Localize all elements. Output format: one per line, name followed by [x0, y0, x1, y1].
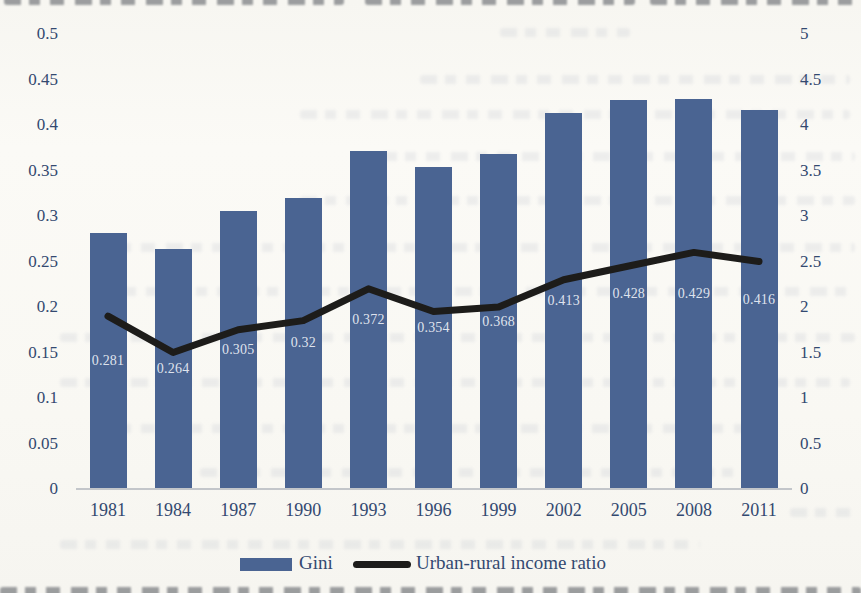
x-axis-label-1993: 1993	[336, 500, 400, 521]
x-axis-line	[76, 488, 792, 490]
x-axis-label-2011: 2011	[727, 500, 791, 521]
legend-gini-swatch	[240, 558, 292, 571]
scanned-book-page: 0.50.450.40.350.30.250.20.150.10.050 54.…	[0, 0, 861, 593]
legend-ratio-label: Urban-rural income ratio	[416, 552, 606, 574]
x-axis-label-1987: 1987	[206, 500, 270, 521]
x-axis-label-1990: 1990	[271, 500, 335, 521]
legend: Gini Urban-rural income ratio	[0, 552, 861, 578]
x-axis-label-1981: 1981	[76, 500, 140, 521]
x-axis-label-1996: 1996	[402, 500, 466, 521]
x-axis-label-2005: 2005	[597, 500, 661, 521]
legend-gini-label: Gini	[299, 552, 333, 574]
x-axis-label-2002: 2002	[532, 500, 596, 521]
legend-ratio-line-swatch	[353, 561, 411, 568]
x-axis-label-2008: 2008	[662, 500, 726, 521]
x-axis-label-1999: 1999	[467, 500, 531, 521]
x-axis-label-1984: 1984	[141, 500, 205, 521]
